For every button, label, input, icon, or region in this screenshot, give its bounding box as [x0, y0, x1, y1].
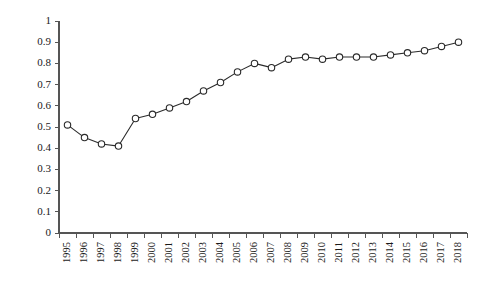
data-point-marker	[64, 122, 70, 128]
x-tick-label: 1996	[78, 242, 89, 263]
data-point-marker	[268, 64, 274, 70]
x-tick-label: 1998	[112, 242, 123, 263]
data-point-marker	[98, 141, 104, 147]
x-tick-label: 2012	[350, 242, 361, 263]
y-tick-label: 0.9	[37, 35, 51, 47]
y-tick-label: 0.3	[37, 162, 51, 174]
x-tick-label: 2005	[231, 242, 242, 263]
y-tick-label: 1	[46, 14, 52, 26]
y-tick-label: 0	[46, 226, 52, 238]
y-tick-label: 0.2	[37, 184, 51, 196]
data-point-marker	[353, 54, 359, 60]
series-line	[68, 42, 459, 146]
x-tick-label: 2010	[316, 242, 327, 263]
chart-plot-area: 00.10.20.30.40.50.60.70.80.91 1995199619…	[0, 0, 501, 293]
y-tick-label: 0.6	[37, 99, 51, 111]
data-point-marker	[234, 69, 240, 75]
x-tick-label: 1997	[95, 242, 106, 263]
x-tick-label: 2001	[163, 242, 174, 263]
x-tick-label: 2008	[282, 242, 293, 263]
y-tick-label: 0.8	[37, 56, 51, 68]
data-point-marker	[81, 134, 87, 140]
x-tick-label: 2018	[452, 242, 463, 263]
data-point-marker	[387, 52, 393, 58]
y-tick-label: 0.4	[37, 141, 51, 153]
x-tick-label: 2000	[146, 242, 157, 263]
y-tick-label: 0.1	[37, 205, 51, 217]
x-tick-label: 2009	[299, 242, 310, 263]
x-tick-label: 2014	[384, 241, 395, 263]
x-tick-label: 2003	[197, 242, 208, 263]
x-tick-label: 2015	[401, 242, 412, 263]
data-point-marker	[115, 143, 121, 149]
x-tick-label: 2004	[214, 241, 225, 263]
data-point-marker	[251, 60, 257, 66]
data-point-marker	[404, 50, 410, 56]
x-tick-label: 1995	[61, 242, 72, 263]
x-tick-label: 2006	[248, 242, 259, 263]
data-point-marker	[217, 79, 223, 85]
data-point-marker	[132, 115, 138, 121]
data-point-marker	[183, 98, 189, 104]
data-point-marker	[166, 105, 172, 111]
data-point-marker	[149, 111, 155, 117]
x-tick-label: 2016	[418, 242, 429, 263]
data-point-marker	[421, 47, 427, 53]
x-tick-label: 2007	[265, 242, 276, 263]
y-tick-label: 0.7	[37, 78, 51, 90]
x-tick-label: 2011	[333, 242, 344, 263]
data-point-marker	[455, 39, 461, 45]
data-point-marker	[336, 54, 342, 60]
data-series	[64, 39, 461, 149]
data-point-marker	[370, 54, 376, 60]
data-point-marker	[438, 43, 444, 49]
y-axis: 00.10.20.30.40.50.60.70.80.91	[37, 14, 59, 238]
data-point-marker	[200, 88, 206, 94]
data-point-marker	[302, 54, 308, 60]
data-point-marker	[285, 56, 291, 62]
data-point-marker	[319, 56, 325, 62]
x-tick-label: 2017	[435, 242, 446, 263]
x-tick-label: 1999	[129, 242, 140, 263]
x-tick-label: 2013	[367, 242, 378, 263]
x-tick-label: 2002	[180, 242, 191, 263]
line-chart-figure: 00.10.20.30.40.50.60.70.80.91 1995199619…	[0, 0, 501, 293]
x-axis: 1995199619971998199920002001200220032004…	[59, 233, 467, 263]
y-tick-label: 0.5	[37, 120, 51, 132]
